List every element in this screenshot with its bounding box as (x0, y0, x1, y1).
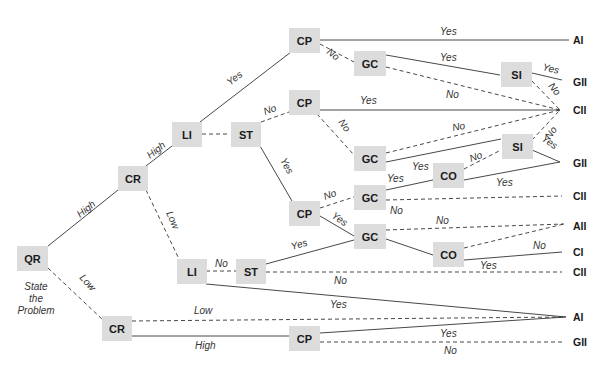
label-li2-ai: Yes (330, 299, 347, 310)
edge-si2-gii (532, 150, 560, 162)
label-cp2-gc2: No (336, 117, 353, 134)
label-gc2-cii: No (451, 120, 466, 133)
edge-st2-gc4 (266, 240, 354, 264)
label-co1-si2: No (468, 149, 484, 164)
terminal-ci: CI (573, 246, 584, 258)
node-st-high[interactable]: ST (231, 122, 261, 147)
label-gc4-aii: No (436, 215, 449, 226)
label-gc3-cii: No (390, 205, 403, 216)
terminal-gii: GII (573, 157, 587, 169)
label-si1-cii: No (546, 80, 563, 97)
node-si-1[interactable]: SI (501, 62, 532, 87)
label-li2-st2: No (215, 258, 228, 269)
label-st1-cp3: Yes (278, 156, 296, 176)
node-co-1[interactable]: CO (433, 163, 464, 188)
label-qr-cr2: Low (78, 272, 99, 294)
label-gc3-co1: Yes (387, 173, 404, 184)
node-label: QR (24, 253, 41, 265)
edge-gc3-cii (386, 196, 562, 200)
node-gc-1[interactable]: GC (354, 51, 386, 76)
node-label: CP (297, 208, 312, 220)
edge-co2-ci (464, 252, 562, 260)
caption-line: State (24, 281, 48, 292)
terminal-gii: GII (573, 336, 587, 348)
node-gc-3[interactable]: GC (354, 185, 386, 210)
node-co-2[interactable]: CO (433, 242, 464, 267)
label-cp3-gc4: Yes (330, 210, 350, 229)
terminal-ai: AI (573, 34, 584, 46)
edge-co2-aii (464, 224, 564, 248)
label-si1-gii: Yes (542, 61, 561, 76)
decision-tree: QR CR LI ST CP GC SI CP GC SI CO (0, 0, 601, 371)
node-gc-4[interactable]: GC (354, 224, 386, 249)
node-st-low[interactable]: ST (236, 259, 266, 284)
terminal-gii: GII (573, 76, 587, 88)
node-cp-3[interactable]: CP (289, 201, 320, 226)
node-label: SI (512, 141, 522, 153)
label-li1-cp1: Yes (224, 69, 244, 88)
node-cr-low[interactable]: CR (102, 316, 132, 341)
node-label: GC (362, 153, 379, 165)
node-label: CP (297, 97, 312, 109)
label-qr-cr1: High (74, 198, 97, 220)
node-label: GC (362, 58, 379, 70)
edge-gc4-aii (386, 224, 564, 230)
node-label: CO (440, 249, 457, 261)
caption-state-the-problem: State the Problem (17, 281, 54, 316)
terminal-outcomes: AI GII CII GII CII AII CI CII AI GII (573, 34, 587, 348)
label-cr1-li2: Low (164, 209, 182, 231)
label-gc1-cii: No (446, 89, 459, 100)
label-cr1-li1: High (144, 139, 167, 161)
label-cp4-gii: No (444, 345, 457, 356)
edge-gc4-co2 (386, 239, 433, 255)
node-label: ST (239, 129, 253, 141)
node-label: ST (244, 266, 258, 278)
node-label: GC (362, 231, 379, 243)
node-cp-4[interactable]: CP (289, 326, 320, 351)
node-cp-2[interactable]: CP (289, 90, 320, 115)
node-label: CR (109, 323, 125, 335)
terminal-cii: CII (573, 190, 587, 202)
terminal-ai: AI (573, 311, 584, 323)
edge-li2-ai (206, 284, 566, 317)
node-cp-1[interactable]: CP (289, 28, 320, 53)
label-cp4-ai: Yes (440, 328, 457, 339)
label-cp3-gc3: No (322, 187, 338, 202)
terminal-aii: AII (573, 220, 587, 232)
caption-line: the (29, 293, 43, 304)
node-label: CP (297, 333, 312, 345)
label-cp2-cii: Yes (360, 95, 377, 106)
label-st1-cp2: No (262, 102, 278, 117)
node-li-low[interactable]: LI (177, 259, 207, 284)
edge-cr2-ai (132, 317, 566, 321)
node-si-2[interactable]: SI (502, 134, 533, 159)
terminal-cii: CII (573, 104, 587, 116)
nodes: QR CR LI ST CP GC SI CP GC SI CO (17, 28, 533, 351)
label-cp1-gc1: No (325, 46, 342, 63)
node-label: CR (125, 173, 141, 185)
node-qr[interactable]: QR (17, 246, 48, 271)
label-cp1-ai: Yes (440, 26, 457, 37)
node-label: GC (362, 192, 379, 204)
node-cr-high[interactable]: CR (118, 166, 148, 191)
label-co2-cii: Yes (480, 260, 497, 271)
node-label: LI (182, 129, 192, 141)
node-gc-2[interactable]: GC (354, 146, 386, 171)
label-cr2-ai: Low (194, 305, 213, 316)
node-li-high[interactable]: LI (172, 122, 202, 147)
label-gc2-co1: Yes (412, 161, 429, 172)
node-label: CO (440, 170, 457, 182)
edge-qr-cr2 (48, 268, 103, 320)
label-gc1-si1: Yes (440, 52, 457, 63)
label-st2-cii: No (334, 275, 347, 286)
label-co1-gii: Yes (496, 177, 513, 188)
node-label: LI (187, 266, 197, 278)
node-label: CP (297, 35, 312, 47)
label-cr2-cp4: High (195, 340, 216, 351)
edge-gc2-cii (386, 110, 560, 153)
label-co2-ci: No (533, 240, 546, 251)
edge-li1-cp1 (200, 52, 291, 122)
node-label: SI (511, 69, 521, 81)
caption-line: Problem (17, 305, 54, 316)
terminal-cii: CII (573, 266, 587, 278)
